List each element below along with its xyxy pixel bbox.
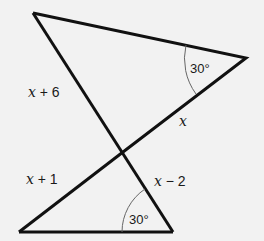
bottom-angle-label: 30° [129,212,149,227]
label-x-plus-1: x + 1 [26,171,58,187]
geometry-diagram: 30° 30° x + 6 x x + 1 x − 2 [0,0,264,241]
label-x-plus-6: x + 6 [28,84,60,100]
upper-triangle-sides [33,13,246,152]
line-right-to-bottomleft [19,152,123,232]
label-x-minus-2: x − 2 [154,173,186,189]
label-x: x [179,113,187,129]
line-topleft-to-bottomright [33,13,173,232]
top-angle-label: 30° [190,61,210,76]
